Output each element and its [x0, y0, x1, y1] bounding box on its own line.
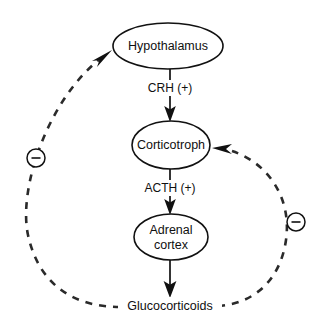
adrenal-cortex-label-line2: cortex [154, 238, 189, 252]
feedback-path-right [218, 151, 287, 306]
node-corticotroph[interactable]: Corticotroph [132, 121, 210, 169]
feedback-loop-left [26, 50, 120, 307]
crh-label: CRH (+) [148, 81, 192, 95]
hypothalamus-label: Hypothalamus [128, 39, 208, 53]
corticotroph-label: Corticotroph [137, 138, 205, 152]
arrow-head-icon [212, 144, 232, 154]
right-inhibition-sign [287, 213, 305, 231]
node-adrenal-cortex[interactable]: Adrenal cortex [134, 214, 208, 260]
feedback-path-left [26, 59, 120, 307]
glucocorticoids-label: Glucocorticoids [127, 299, 212, 313]
adrenal-cortex-label-line1: Adrenal [149, 223, 192, 237]
acth-label: ACTH (+) [145, 181, 196, 195]
node-hypothalamus[interactable]: Hypothalamus [113, 23, 223, 69]
diagram-canvas: Hypothalamus Corticotroph Adrenal cortex… [0, 0, 320, 327]
terminal-glucocorticoids[interactable]: Glucocorticoids [118, 297, 222, 315]
hpa-axis-diagram: Hypothalamus Corticotroph Adrenal cortex… [0, 0, 320, 327]
edge-label-acth: ACTH (+) [136, 180, 204, 196]
arrow-head-icon [92, 50, 112, 67]
feedback-loop-right [212, 144, 287, 306]
edge-label-crh: CRH (+) [138, 80, 202, 96]
edge-adrenal-cortex-to-glucocorticoids [164, 260, 177, 298]
left-inhibition-sign [27, 149, 45, 167]
